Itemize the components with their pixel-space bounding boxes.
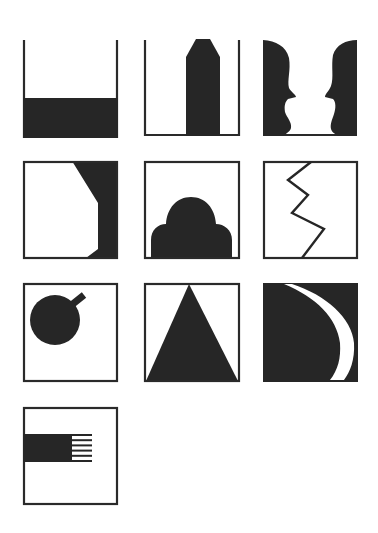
frame xyxy=(264,162,357,258)
triangle-shape xyxy=(146,284,238,381)
panel-dome-mound xyxy=(145,162,239,258)
pencil-shape xyxy=(186,39,220,136)
circle xyxy=(30,295,80,345)
figure-grid xyxy=(0,0,378,533)
panel-circle-with-stem xyxy=(24,284,117,381)
panel-facing-profiles xyxy=(263,40,357,136)
dome-shape xyxy=(151,197,232,258)
right-profile xyxy=(325,40,357,136)
panel-fringed-bar xyxy=(23,408,117,504)
left-profile xyxy=(263,40,296,136)
panel-zigzag-line xyxy=(264,162,357,258)
panel-crescent-on-black xyxy=(263,283,358,382)
panel-half-filled-container xyxy=(23,40,118,138)
zigzag xyxy=(288,162,324,258)
panel-corner-cut-shape xyxy=(24,161,117,258)
panel-triangle xyxy=(145,284,239,381)
fill-region xyxy=(23,98,118,138)
black-region xyxy=(72,161,117,258)
bar xyxy=(23,434,72,462)
fringe-lines xyxy=(71,435,92,461)
panel-pencil-in-container xyxy=(145,39,239,136)
